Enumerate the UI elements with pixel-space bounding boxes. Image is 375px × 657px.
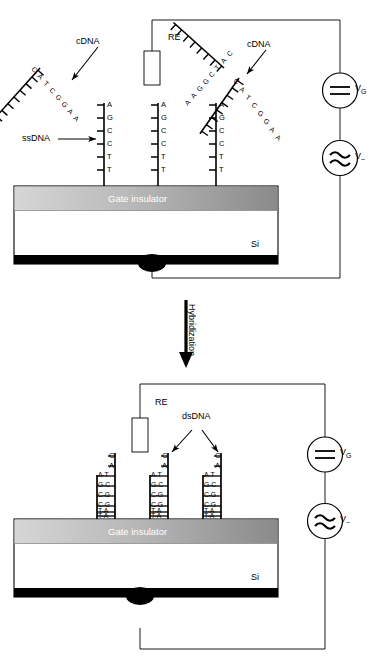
- dna-fet-biosensor-figure: RE cDNA cDNA ssDNA Gate insulator Si VG …: [0, 0, 375, 657]
- base-letter: C: [161, 127, 166, 135]
- silicon-label-bottom: Si: [251, 572, 259, 582]
- hybridization-label: Hybridization: [187, 304, 196, 356]
- base-letter: C: [161, 140, 166, 148]
- base-letter: A: [109, 462, 114, 470]
- dsdna-annotation-arrow: [202, 430, 218, 452]
- gate-insulator-label-bottom: Gate insulator: [108, 526, 167, 537]
- ssdna-probe: [151, 103, 158, 186]
- gate-insulator-label-top: Gate insulator: [108, 193, 167, 204]
- back-contact-bump: [126, 587, 154, 605]
- ac-source-icon: [323, 141, 358, 176]
- reference-electrode-icon: [144, 51, 160, 85]
- base-letter: A: [107, 101, 112, 109]
- reference-electrode-label: RE: [168, 33, 181, 42]
- cdna-label-left: cDNA: [76, 37, 100, 46]
- cdna-annotation-arrow: [72, 47, 98, 80]
- base-letter: C: [109, 452, 114, 460]
- base-letter: C: [162, 452, 167, 460]
- dsdna-annotation-arrow: [172, 430, 192, 452]
- dc-source-icon: [308, 437, 343, 472]
- vg-label-top: VG: [355, 84, 366, 95]
- base-letter: A: [219, 101, 224, 109]
- reference-electrode-label-bottom: RE: [155, 398, 168, 407]
- base-letter: A: [161, 101, 166, 109]
- reference-electrode-icon: [132, 418, 148, 452]
- base-letter: T: [107, 153, 112, 161]
- base-letter: C: [219, 127, 224, 135]
- base-letter: T: [219, 166, 224, 174]
- base-letter: T: [219, 153, 224, 161]
- base-pair: T-A: [98, 513, 108, 520]
- back-contact-bump: [138, 254, 166, 272]
- base-letter: C: [107, 127, 112, 135]
- base-letter: A: [215, 462, 220, 470]
- base-pair: T-A: [151, 513, 161, 520]
- base-letter: G: [161, 114, 167, 122]
- base-pair: C-G: [204, 492, 216, 499]
- silicon-label-top: Si: [251, 239, 259, 249]
- base-pair: A-T: [98, 472, 108, 479]
- base-letter: T: [107, 166, 112, 174]
- base-pair: A-T: [151, 472, 161, 479]
- cdna-label-right: cDNA: [247, 40, 271, 49]
- ssdna-label: ssDNA: [22, 134, 50, 143]
- base-letter: C: [215, 452, 220, 460]
- vac-label-bottom: V~: [340, 515, 350, 526]
- base-letter: T: [161, 166, 166, 174]
- base-letter: A: [162, 462, 167, 470]
- bottom-panel-group: [14, 384, 343, 649]
- base-pair: C-G: [98, 492, 110, 499]
- dsdna-label: dsDNA: [182, 412, 211, 421]
- base-letter: G: [219, 114, 225, 122]
- base-letter: C: [219, 140, 224, 148]
- top-panel-group: [0, 20, 358, 278]
- base-pair: G-C: [204, 482, 216, 489]
- base-pair: G-C: [151, 482, 163, 489]
- vac-label-top: V~: [355, 152, 365, 163]
- base-pair: A-T: [204, 472, 214, 479]
- base-pair: G-C: [98, 482, 110, 489]
- base-pair: C-G: [151, 492, 163, 499]
- ssdna-probe: [97, 103, 104, 186]
- cdna-annotation-arrow: [247, 50, 266, 74]
- dc-source-icon: [323, 73, 358, 108]
- base-pair: T-A: [204, 513, 214, 520]
- base-letter: C: [107, 140, 112, 148]
- ac-source-icon: [308, 504, 343, 539]
- vg-label-bottom: VG: [340, 448, 351, 459]
- base-letter: T: [161, 153, 166, 161]
- base-letter: G: [107, 114, 113, 122]
